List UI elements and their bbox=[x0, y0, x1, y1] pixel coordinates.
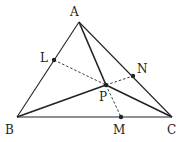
point-n-dot bbox=[131, 74, 135, 78]
label-c: C bbox=[167, 123, 176, 137]
segment-ap bbox=[79, 22, 106, 85]
label-m: M bbox=[113, 123, 125, 137]
point-m-dot bbox=[119, 115, 123, 119]
point-l-dot bbox=[52, 58, 56, 62]
label-l: L bbox=[40, 51, 48, 65]
dashed-pn bbox=[106, 76, 133, 85]
segment-bp bbox=[17, 85, 106, 117]
side-ca bbox=[79, 22, 172, 117]
label-b: B bbox=[5, 123, 14, 137]
geometry-diagram: A B C L N P M bbox=[0, 0, 183, 142]
diagram-canvas: A B C L N P M bbox=[0, 0, 183, 142]
point-p-dot bbox=[104, 83, 108, 87]
dashed-pm bbox=[106, 85, 121, 117]
label-p: P bbox=[99, 90, 107, 104]
dashed-lp bbox=[54, 60, 106, 85]
label-n: N bbox=[137, 62, 148, 76]
side-ab bbox=[17, 22, 79, 117]
label-a: A bbox=[69, 5, 79, 19]
segment-cp bbox=[106, 85, 172, 117]
